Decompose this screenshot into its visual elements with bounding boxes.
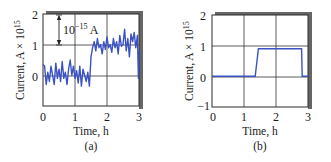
ytick-b-2: 2 bbox=[200, 9, 206, 23]
xtick-a-1: 1 bbox=[72, 110, 78, 124]
caption-a: (a) bbox=[85, 140, 98, 153]
xtick-b-1: 1 bbox=[241, 110, 247, 124]
figure: 10−15 A 2 1 0 0 1 2 3 Time, h Current, A… bbox=[0, 0, 331, 162]
ylabel-b: Current, A × 1015 bbox=[182, 21, 196, 101]
panel-a: 10−15 A 2 1 0 0 1 2 3 Time, h Current, A… bbox=[13, 8, 143, 153]
xtick-b-3: 3 bbox=[305, 110, 311, 124]
plot-frame-b bbox=[212, 15, 308, 107]
caption-b: (b) bbox=[253, 140, 267, 153]
frame-shadow-right bbox=[308, 12, 312, 109]
xtick-a-0: 0 bbox=[40, 110, 46, 124]
xtick-a-2: 2 bbox=[104, 110, 110, 124]
xtick-b-2: 2 bbox=[273, 110, 279, 124]
ylabel-a: Current, A × 1015 bbox=[13, 20, 27, 100]
panel-b: 2 1 0 −1 0 1 2 3 Time, h Current, A × 10… bbox=[182, 9, 312, 153]
ytick-a-1: 1 bbox=[32, 39, 38, 53]
ytick-b-neg1: −1 bbox=[197, 99, 210, 113]
xlabel-a: Time, h bbox=[73, 125, 109, 138]
frame-shadow-right bbox=[139, 11, 143, 109]
xlabel-b: Time, h bbox=[242, 125, 278, 138]
ytick-b-1: 1 bbox=[200, 40, 206, 54]
xtick-a-3: 3 bbox=[136, 110, 142, 124]
ytick-a-0: 0 bbox=[32, 70, 38, 84]
ytick-a-2: 2 bbox=[32, 8, 38, 22]
ytick-b-0: 0 bbox=[200, 71, 206, 85]
xtick-b-0: 0 bbox=[210, 110, 216, 124]
